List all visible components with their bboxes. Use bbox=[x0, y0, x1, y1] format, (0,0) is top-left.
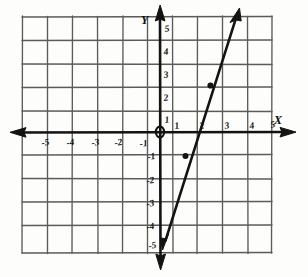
marked-point-1-neg1 bbox=[183, 153, 189, 159]
y-tick-label-neg1: -1 bbox=[147, 151, 156, 162]
x-tick-label-neg1: -1 bbox=[139, 138, 148, 149]
coordinate-graph-figure: Y X -5 -4 -3 -2 -1 1 2 3 4 5 5 4 3 2 1 -… bbox=[0, 0, 308, 277]
graph-canvas: Y X -5 -4 -3 -2 -1 1 2 3 4 5 5 4 3 2 1 -… bbox=[0, 0, 308, 277]
marked-point-2-2 bbox=[207, 82, 213, 88]
